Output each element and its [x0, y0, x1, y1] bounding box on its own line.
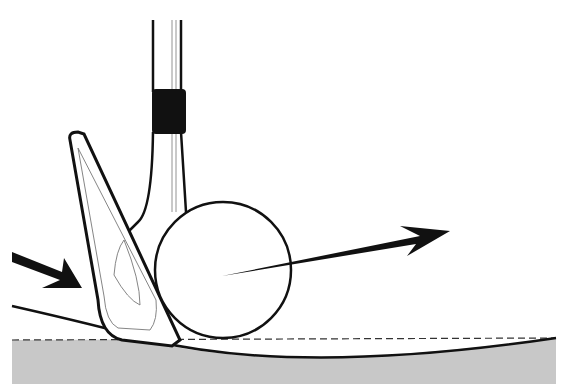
ferrule — [152, 89, 186, 134]
golf-ball — [155, 202, 291, 338]
golf-illustration — [0, 0, 566, 390]
club-approach-arrow — [12, 252, 82, 288]
